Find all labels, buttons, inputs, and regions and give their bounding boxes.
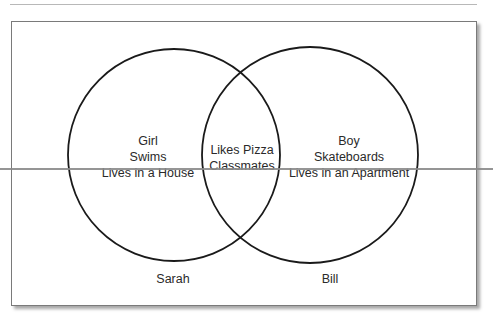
left-set-name: Sarah (143, 271, 203, 287)
intersection-item: Classmates (203, 158, 281, 174)
left-set-items: Girl Swims Lives in a House (93, 133, 203, 181)
right-item: Boy (283, 133, 415, 149)
right-item: Skateboards (283, 149, 415, 165)
right-set-items: Boy Skateboards Lives in an Apartment (283, 133, 415, 181)
left-item: Girl (93, 133, 203, 149)
horizontal-strike-line (0, 168, 493, 170)
right-set-name: Bill (310, 271, 350, 287)
left-item: Swims (93, 149, 203, 165)
intersection-item: Likes Pizza (203, 142, 281, 158)
